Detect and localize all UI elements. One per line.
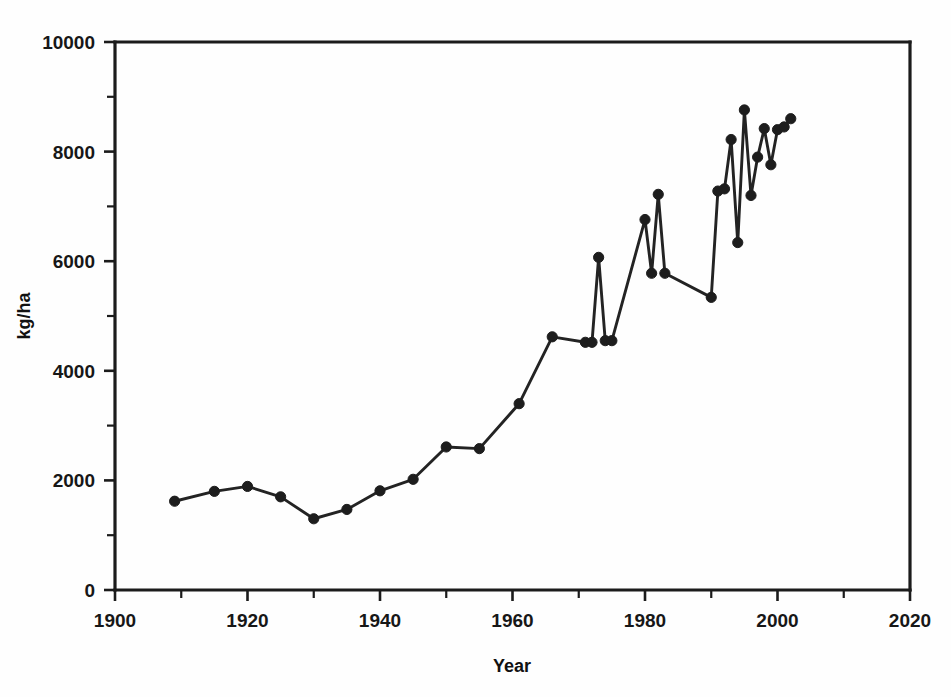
data-point: [587, 337, 597, 347]
data-point: [733, 237, 743, 247]
data-point: [408, 474, 418, 484]
data-point: [276, 492, 286, 502]
data-point: [209, 486, 219, 496]
data-point: [739, 105, 749, 115]
y-tick-label: 4000: [53, 361, 95, 382]
data-point: [309, 514, 319, 524]
data-point: [441, 442, 451, 452]
data-point: [786, 114, 796, 124]
y-tick-label: 2000: [53, 470, 95, 491]
data-point: [170, 496, 180, 506]
y-axis-ticks: [104, 42, 115, 590]
data-point: [640, 214, 650, 224]
y-tick-label: 6000: [53, 251, 95, 272]
x-axis-ticks: [115, 590, 910, 601]
data-series-markers: [170, 105, 796, 524]
data-point: [342, 504, 352, 514]
data-point: [746, 190, 756, 200]
y-axis-tick-labels: 0200040006000800010000: [42, 32, 95, 601]
x-tick-label: 1920: [226, 610, 268, 631]
data-point: [759, 123, 769, 133]
x-axis-tick-labels: 1900192019401960198020002020: [94, 610, 931, 631]
data-point: [660, 268, 670, 278]
data-point: [474, 444, 484, 454]
data-point: [242, 481, 252, 491]
x-tick-label: 1960: [491, 610, 533, 631]
x-axis-title: Year: [493, 656, 531, 676]
data-point: [726, 134, 736, 144]
data-point: [375, 486, 385, 496]
data-point: [766, 160, 776, 170]
data-point: [647, 268, 657, 278]
data-series-line: [175, 110, 791, 519]
y-tick-label: 10000: [42, 32, 95, 53]
data-point: [594, 252, 604, 262]
y-axis-title: kg/ha: [14, 292, 34, 340]
x-tick-label: 2020: [889, 610, 931, 631]
x-tick-label: 1900: [94, 610, 136, 631]
line-chart: 0200040006000800010000 19001920194019601…: [0, 0, 951, 697]
y-tick-label: 8000: [53, 142, 95, 163]
y-tick-label: 0: [84, 580, 95, 601]
data-point: [547, 332, 557, 342]
x-tick-label: 1940: [359, 610, 401, 631]
x-tick-label: 1980: [624, 610, 666, 631]
chart-figure: 0200040006000800010000 19001920194019601…: [0, 0, 951, 697]
data-point: [607, 336, 617, 346]
x-tick-label: 2000: [756, 610, 798, 631]
data-point: [719, 184, 729, 194]
data-point: [653, 189, 663, 199]
data-point: [514, 399, 524, 409]
data-point: [706, 292, 716, 302]
data-point: [753, 152, 763, 162]
